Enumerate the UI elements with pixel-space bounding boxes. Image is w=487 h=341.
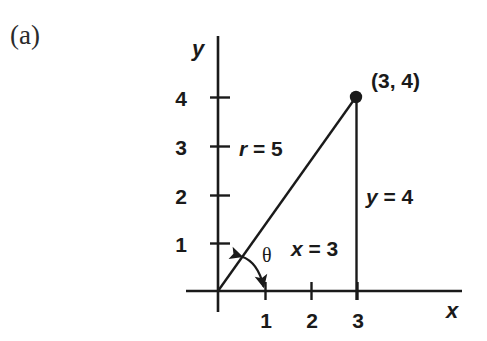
hypotenuse-line [218, 97, 356, 291]
y-tick-label-1: 1 [165, 234, 187, 255]
angle-theta-label: θ [262, 245, 272, 265]
x-tick-label-1: 1 [255, 310, 277, 331]
y-leg-variable: y [366, 185, 378, 208]
x-leg-annotation: x = 3 [291, 238, 338, 259]
y-tick-label-3: 3 [165, 137, 187, 158]
y-tick-label-2: 2 [165, 186, 187, 207]
data-point-dot [350, 91, 362, 103]
angle-arc-arrow [242, 257, 264, 287]
x-axis-label: x [446, 300, 458, 322]
radius-equation: = 5 [247, 137, 283, 160]
y-leg-equation: = 4 [378, 185, 414, 208]
x-leg-equation: = 3 [303, 237, 339, 260]
radius-annotation: r = 5 [239, 138, 283, 159]
y-axis-label: y [192, 38, 204, 60]
x-leg-variable: x [291, 237, 303, 260]
point-coordinate-label: (3, 4) [371, 70, 420, 91]
panel-letter: (a) [10, 22, 40, 49]
figure-panel: (a) y x 4 3 2 1 1 2 3 r = 5 x = 3 y = 4 … [0, 0, 487, 341]
y-tick-label-4: 4 [165, 88, 187, 109]
radius-variable: r [239, 137, 247, 160]
y-leg-annotation: y = 4 [366, 186, 413, 207]
diagram-canvas [0, 0, 487, 341]
x-tick-label-2: 2 [301, 310, 323, 331]
x-tick-label-3: 3 [347, 310, 369, 331]
